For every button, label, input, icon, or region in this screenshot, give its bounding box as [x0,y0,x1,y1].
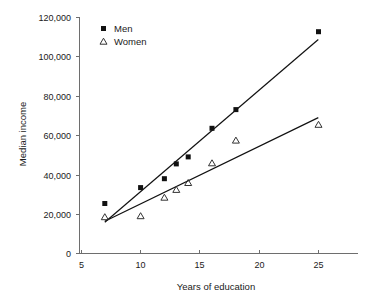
y-tick-label-20000: 20,000 [43,210,71,220]
y-tick-label-60000: 60,000 [43,131,71,141]
data-point-men-25 [316,29,321,34]
data-point-women-18 [232,137,239,143]
chart-figure: 0 20,000 40,000 60,000 80,000 100,000 12… [0,0,371,305]
series-women-points [101,121,322,219]
data-point-men-13 [174,161,179,166]
y-tick-label-0: 0 [66,249,71,259]
data-point-men-7 [102,201,107,206]
legend-marker-men [101,26,106,31]
y-tick-label-40000: 40,000 [43,171,71,181]
data-point-women-10 [137,213,144,219]
legend-label-men: Men [114,23,132,34]
series-men-points [102,29,321,206]
x-axis-title: Years of education [177,281,255,292]
legend-label-women: Women [114,36,147,47]
scatter-plot: 0 20,000 40,000 60,000 80,000 100,000 12… [0,0,371,305]
data-point-men-16 [210,126,215,131]
data-point-women-12 [161,194,168,200]
y-axis-ticks [76,18,80,254]
x-tick-label-15: 15 [194,260,204,270]
x-tick-label-25: 25 [313,260,323,270]
x-tick-label-10: 10 [135,260,145,270]
data-point-women-16 [209,160,216,166]
chart-legend: Men Women [100,23,147,47]
x-axis-ticks [82,250,319,254]
data-point-men-12 [162,176,167,181]
y-tick-label-100000: 100,000 [38,52,71,62]
trend-line-women [105,118,318,222]
trend-line-men [105,40,318,223]
x-tick-label-5: 5 [79,260,84,270]
data-point-women-25 [315,121,322,127]
data-point-men-14 [186,154,191,159]
data-point-women-7 [101,214,108,220]
y-tick-label-80000: 80,000 [43,92,71,102]
data-point-men-18 [233,107,238,112]
data-point-men-10 [138,185,143,190]
y-axis-title: Median income [17,102,28,166]
x-tick-label-20: 20 [254,260,264,270]
y-tick-label-120000: 120,000 [38,13,71,23]
legend-marker-women [100,38,107,44]
